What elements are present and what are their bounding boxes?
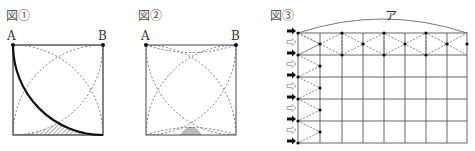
point-a [11, 43, 15, 47]
figure-3-diagram [265, 0, 475, 151]
grid [298, 33, 467, 143]
unhatched-mask [13, 45, 103, 135]
dashed-arcs [146, 45, 236, 135]
square-outline [146, 45, 236, 135]
figure-1-diagram [0, 0, 135, 151]
figure-3: 図③ ア [265, 0, 475, 151]
figure-1: 図① A B [0, 0, 135, 151]
figure-2: 図② A B [135, 0, 265, 151]
figure-2-diagram [135, 0, 265, 151]
point-b [234, 43, 238, 47]
point-a [144, 43, 148, 47]
point-b [101, 43, 105, 47]
vertex-dots [296, 31, 468, 144]
zigzag-paths [298, 33, 467, 143]
entry-arrows [287, 28, 296, 145]
dimension-curve [298, 19, 467, 33]
